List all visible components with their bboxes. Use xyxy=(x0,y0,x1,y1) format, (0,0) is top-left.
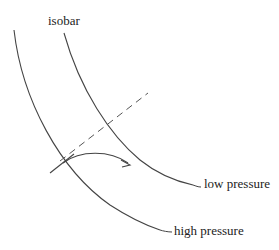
high-pressure-isobar xyxy=(14,30,160,230)
isobar-label: isobar xyxy=(48,13,80,28)
dashed-gradient-line xyxy=(60,93,148,161)
isobar-diagram: isobar low pressure high pressure xyxy=(0,0,279,250)
high-pressure-leader xyxy=(160,230,172,232)
low-pressure-label: low pressure xyxy=(204,176,270,191)
high-pressure-label: high pressure xyxy=(174,223,244,238)
low-pressure-isobar xyxy=(64,33,193,185)
low-pressure-leader xyxy=(193,185,201,187)
